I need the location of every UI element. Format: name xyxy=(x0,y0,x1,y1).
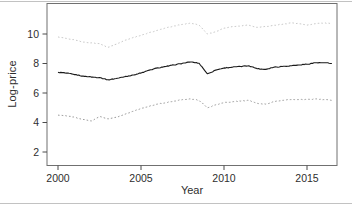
series-lower-band xyxy=(58,99,332,121)
series-log-price xyxy=(58,62,332,80)
x-tick-label: 2015 xyxy=(295,172,319,184)
plot-box xyxy=(47,4,337,166)
series-upper-band xyxy=(58,23,332,48)
x-axis-title: Year xyxy=(47,184,337,196)
y-axis-title: Log-price xyxy=(6,60,18,108)
chart-canvas: 2000200520102015246810 xyxy=(0,0,352,206)
x-tick-label: 2000 xyxy=(46,172,70,184)
y-tick-label: 10 xyxy=(27,28,39,40)
y-tick-label: 4 xyxy=(33,116,39,128)
log-price-chart-figure: 2000200520102015246810 Log-price Year xyxy=(0,0,352,206)
y-tick-label: 2 xyxy=(33,146,39,158)
y-tick-label: 8 xyxy=(33,57,39,69)
x-tick-label: 2005 xyxy=(129,172,153,184)
y-tick-label: 6 xyxy=(33,87,39,99)
x-tick-label: 2010 xyxy=(212,172,236,184)
